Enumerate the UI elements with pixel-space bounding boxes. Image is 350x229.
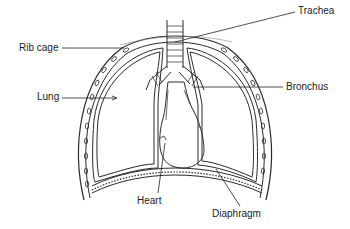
label-bronchus: Bronchus — [286, 82, 328, 92]
respiratory-diagram: Trachea Rib cage Lung Bronchus Heart Dia… — [0, 0, 350, 229]
leader-lines — [62, 12, 295, 206]
heart-drawing — [160, 82, 204, 168]
label-heart: Heart — [137, 196, 161, 206]
lungs-drawing — [93, 48, 258, 182]
label-trachea: Trachea — [298, 6, 334, 16]
lungs-illustration — [0, 0, 350, 229]
trachea-drawing — [146, 20, 204, 90]
label-lung: Lung — [37, 92, 59, 102]
label-rib-cage: Rib cage — [19, 43, 58, 53]
label-diaphragm: Diaphragm — [212, 209, 261, 219]
